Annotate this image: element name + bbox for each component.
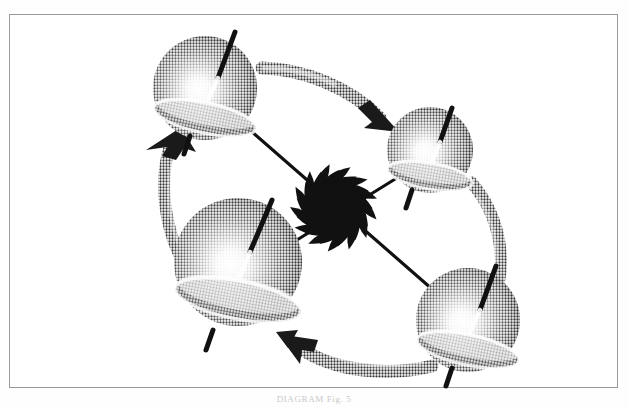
spin-sphere-top-left [151, 32, 259, 154]
spin-axis-tick-bottom-right [446, 368, 452, 386]
spin-axis-tick-top-right [406, 190, 412, 208]
spin-sphere-bottom-left [172, 198, 305, 350]
spin-sphere-top-right [385, 107, 474, 208]
arrow-topleft-to-topright [262, 68, 399, 132]
spin-axis-tick-bottom-left [206, 330, 213, 350]
figure-caption: DIAGRAM Fig. 5 [0, 392, 628, 410]
arrow-bottomright-to-bottomleft [276, 330, 432, 371]
figure-canvas [0, 0, 628, 410]
figure-page: DIAGRAM Fig. 5 [0, 0, 628, 410]
